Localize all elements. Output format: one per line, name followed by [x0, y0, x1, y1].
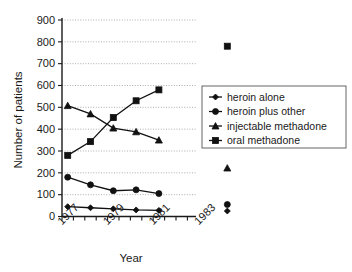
legend-label: injectable methadone: [227, 120, 327, 132]
data-point: [110, 115, 116, 121]
x-axis-tick-labels: 1977197919811983: [55, 201, 218, 227]
series-line: [68, 106, 159, 140]
data-point: [133, 207, 139, 213]
y-tick-label: 300: [37, 145, 55, 157]
data-point-isolated: [224, 201, 230, 207]
y-tick-label: 600: [37, 79, 55, 91]
legend-label: heroin plus other: [227, 105, 306, 117]
y-tick-label: 0: [49, 210, 55, 222]
x-tick-label: 1979: [101, 201, 127, 227]
data-point: [65, 152, 71, 158]
data-point: [110, 188, 116, 194]
legend-label: heroin alone: [227, 91, 285, 103]
data-point: [88, 139, 94, 145]
y-tick-label: 100: [37, 188, 55, 200]
data-point-isolated: [224, 165, 231, 171]
y-tick-label: 400: [37, 123, 55, 135]
y-tick-label: 200: [37, 167, 55, 179]
x-tick-label: 1981: [146, 201, 172, 227]
y-tick-label: 900: [37, 14, 55, 26]
y-tick-label: 800: [37, 36, 55, 48]
chart-figure: 0100200300400500600700800900 19771979198…: [0, 0, 352, 272]
data-point: [88, 182, 94, 188]
data-point: [156, 191, 162, 197]
data-point: [88, 205, 94, 211]
legend-marker-square: [213, 138, 219, 144]
data-point-isolated: [224, 43, 230, 49]
y-tick-label: 500: [37, 101, 55, 113]
gridlines: [62, 20, 196, 195]
data-point: [133, 187, 139, 193]
y-tick-label: 700: [37, 57, 55, 69]
legend-marker-circle: [213, 109, 219, 115]
x-axis-title: Year: [119, 252, 142, 264]
series-line: [68, 90, 159, 156]
data-point-isolated: [224, 208, 230, 214]
chart-legend: heroin aloneheroin plus otherinjectable …: [202, 86, 346, 148]
legend-item-injectable-methadone[interactable]: injectable methadone: [209, 120, 327, 132]
data-point: [133, 98, 139, 104]
y-axis-tick-labels: 0100200300400500600700800900: [37, 14, 55, 223]
data-point: [65, 174, 71, 180]
data-point: [156, 87, 162, 93]
data-point: [64, 102, 71, 108]
y-axis-title: Number of patients: [12, 71, 24, 168]
line-chart: 0100200300400500600700800900 19771979198…: [0, 0, 352, 272]
series-heroin-plus-other: [65, 174, 231, 207]
legend-label: oral methadone: [227, 134, 300, 146]
x-tick-label: 1983: [192, 201, 218, 227]
